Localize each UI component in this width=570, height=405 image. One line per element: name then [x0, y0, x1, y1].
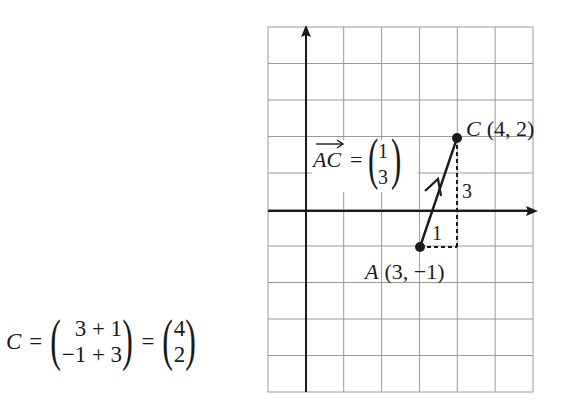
coordinates-of-c-equation: C = ( 3 + 1 −1 + 3 ) = ( 4 2 )	[6, 312, 197, 372]
rise-label: 3	[462, 180, 472, 202]
svg-text:1: 1	[378, 140, 388, 162]
lhs-c: C	[6, 329, 21, 355]
run-label: 1	[432, 222, 442, 244]
left-paren-icon-2: (	[163, 311, 174, 369]
right-paren-icon: )	[122, 311, 133, 369]
point-c-label: C(4, 2)	[466, 116, 534, 141]
y-axis	[301, 25, 311, 392]
equals-sign: =	[29, 329, 42, 355]
sum-column-vector: 3 + 1 −1 + 3	[62, 316, 122, 368]
svg-text:(: (	[368, 128, 378, 190]
svg-text:=: =	[350, 147, 362, 172]
result-bottom: 2	[174, 342, 186, 368]
sum-top: 3 + 1	[75, 316, 122, 342]
x-axis	[268, 206, 538, 216]
svg-text:3: 3	[378, 166, 388, 188]
result-column-vector: 4 2	[174, 316, 186, 368]
svg-text:AC: AC	[311, 147, 341, 172]
sum-bottom: −1 + 3	[62, 342, 122, 368]
point-a-dot	[415, 242, 425, 252]
left-paren-icon: (	[51, 311, 62, 369]
result-top: 4	[174, 316, 186, 342]
vector-ac-equation: AC = ( 1 3 )	[311, 128, 418, 192]
point-c-dot	[452, 133, 462, 143]
right-paren-icon-2: )	[186, 311, 197, 369]
point-a-label: A(3, −1)	[363, 259, 445, 284]
equals-sign-2: =	[141, 329, 154, 355]
svg-text:): )	[391, 128, 401, 190]
grid-lines	[268, 27, 533, 392]
